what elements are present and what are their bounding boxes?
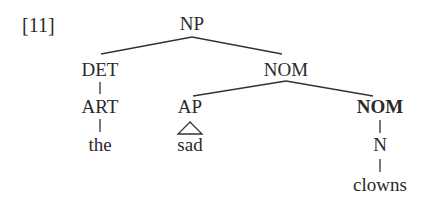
triangle-icon	[178, 122, 202, 134]
tree-node-np: NP	[180, 14, 204, 34]
edge-np-nom	[192, 37, 282, 54]
tree-node-the: the	[88, 135, 111, 155]
tree-node-nom1: NOM	[264, 60, 308, 80]
tree-node-nom2: NOM	[357, 97, 403, 117]
edge-nom-ap	[193, 81, 286, 96]
tree-node-ap: AP	[178, 97, 202, 117]
tree-node-det: DET	[82, 60, 119, 80]
tree-node-art: ART	[82, 97, 119, 117]
edge-np-det	[101, 37, 192, 54]
edge-nom-nom	[286, 81, 373, 96]
tree-node-clowns: clowns	[353, 175, 407, 195]
tree-node-sad: sad	[177, 135, 202, 155]
tree-node-n: N	[373, 135, 387, 155]
